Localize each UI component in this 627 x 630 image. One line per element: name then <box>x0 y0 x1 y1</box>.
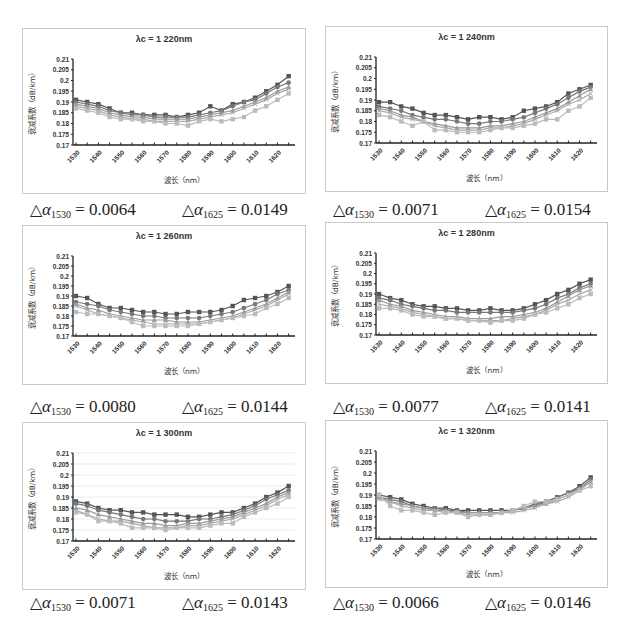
svg-text:0.195: 0.195 <box>356 86 373 93</box>
svg-text:1610: 1610 <box>547 542 562 557</box>
svg-text:1560: 1560 <box>435 146 450 161</box>
delta-alpha-1625: △α1625 = 0.0154 <box>485 200 591 220</box>
svg-text:1540: 1540 <box>88 544 103 559</box>
svg-text:0.175: 0.175 <box>53 527 70 534</box>
delta-icon: △ <box>333 398 345 415</box>
svg-text:波长（nm）: 波长（nm） <box>164 175 204 185</box>
svg-text:0.175: 0.175 <box>53 131 70 138</box>
svg-text:0.17: 0.17 <box>359 140 372 147</box>
svg-text:衰减系数（dB/km）: 衰减系数（dB/km） <box>330 261 340 327</box>
svg-text:0.18: 0.18 <box>56 120 69 127</box>
svg-text:1600: 1600 <box>222 339 237 354</box>
chart-panel: λc = 1 260nm0.210.2050.20.1950.190.1850.… <box>22 225 306 385</box>
svg-text:1560: 1560 <box>133 148 148 163</box>
delta-icon: △ <box>333 201 345 218</box>
svg-text:1590: 1590 <box>502 338 517 353</box>
svg-text:1530: 1530 <box>66 339 81 354</box>
svg-text:0.21: 0.21 <box>359 54 372 61</box>
svg-text:1560: 1560 <box>435 338 450 353</box>
svg-text:0.175: 0.175 <box>356 321 373 328</box>
svg-text:1540: 1540 <box>391 146 406 161</box>
svg-text:1590: 1590 <box>502 146 517 161</box>
line-chart: 0.210.2050.20.1950.190.1850.180.1750.171… <box>326 27 609 193</box>
svg-text:1600: 1600 <box>524 338 539 353</box>
svg-text:1620: 1620 <box>267 544 282 559</box>
svg-text:1530: 1530 <box>66 544 81 559</box>
svg-text:1550: 1550 <box>413 146 428 161</box>
svg-text:1560: 1560 <box>133 544 148 559</box>
svg-text:衰减系数（dB/km）: 衰减系数（dB/km） <box>27 263 37 329</box>
svg-text:0.185: 0.185 <box>356 503 373 510</box>
svg-text:0.175: 0.175 <box>356 129 373 136</box>
svg-text:1530: 1530 <box>369 542 384 557</box>
svg-text:0.195: 0.195 <box>356 481 373 488</box>
svg-text:1530: 1530 <box>66 148 81 163</box>
svg-text:波长（nm）: 波长（nm） <box>164 366 204 376</box>
svg-text:0.205: 0.205 <box>356 260 373 267</box>
delta-alpha-1625: △α1625 = 0.0144 <box>182 397 288 417</box>
svg-text:0.195: 0.195 <box>53 283 70 290</box>
svg-text:1580: 1580 <box>177 544 192 559</box>
chart-panel: λc = 1 240nm0.210.2050.20.1950.190.1850.… <box>325 26 608 192</box>
svg-text:0.195: 0.195 <box>53 483 70 490</box>
svg-text:0.2: 0.2 <box>363 270 372 277</box>
svg-text:0.185: 0.185 <box>53 109 70 116</box>
svg-text:1570: 1570 <box>458 542 473 557</box>
svg-text:0.205: 0.205 <box>53 461 70 468</box>
svg-text:0.17: 0.17 <box>359 536 372 543</box>
figure-caption <box>200 614 420 626</box>
svg-text:1540: 1540 <box>88 339 103 354</box>
svg-text:0.18: 0.18 <box>56 516 69 523</box>
svg-text:1600: 1600 <box>222 544 237 559</box>
delta-icon: △ <box>485 398 497 415</box>
svg-text:1560: 1560 <box>435 542 450 557</box>
svg-text:1570: 1570 <box>155 339 170 354</box>
line-chart: 0.210.2050.20.1950.190.1850.180.1750.171… <box>326 421 609 589</box>
svg-text:波长（nm）: 波长（nm） <box>466 173 506 183</box>
svg-text:0.18: 0.18 <box>359 311 372 318</box>
svg-text:0.185: 0.185 <box>53 505 70 512</box>
svg-text:1620: 1620 <box>569 338 584 353</box>
svg-text:0.175: 0.175 <box>356 525 373 532</box>
svg-text:1620: 1620 <box>267 339 282 354</box>
svg-text:0.205: 0.205 <box>356 459 373 466</box>
svg-text:1580: 1580 <box>480 542 495 557</box>
line-chart: 0.210.2050.20.1950.190.1850.180.1750.171… <box>23 29 307 195</box>
delta-alpha-1530: △α1530 = 0.0066 <box>333 593 439 613</box>
svg-text:1550: 1550 <box>413 542 428 557</box>
svg-text:0.18: 0.18 <box>359 514 372 521</box>
svg-text:波长（nm）: 波长（nm） <box>466 365 506 375</box>
line-chart: 0.210.2050.20.1950.190.1850.180.1750.171… <box>326 223 609 385</box>
svg-text:0.195: 0.195 <box>53 88 70 95</box>
delta-alpha-1530: △α1530 = 0.0071 <box>333 200 439 220</box>
delta-icon: △ <box>30 201 42 218</box>
svg-text:0.205: 0.205 <box>356 64 373 71</box>
delta-icon: △ <box>182 398 194 415</box>
svg-text:1590: 1590 <box>200 544 215 559</box>
svg-text:1570: 1570 <box>458 338 473 353</box>
svg-text:0.18: 0.18 <box>359 118 372 125</box>
svg-text:1550: 1550 <box>110 148 125 163</box>
svg-text:1550: 1550 <box>413 338 428 353</box>
svg-text:1560: 1560 <box>133 339 148 354</box>
delta-icon: △ <box>182 201 194 218</box>
svg-text:0.19: 0.19 <box>56 99 69 106</box>
svg-text:1610: 1610 <box>547 146 562 161</box>
svg-text:0.2: 0.2 <box>60 472 69 479</box>
svg-text:1620: 1620 <box>569 146 584 161</box>
delta-icon: △ <box>333 594 345 611</box>
svg-text:0.17: 0.17 <box>56 538 69 545</box>
svg-text:1610: 1610 <box>245 544 260 559</box>
svg-text:0.205: 0.205 <box>53 66 70 73</box>
delta-icon: △ <box>485 201 497 218</box>
svg-text:0.2: 0.2 <box>60 273 69 280</box>
svg-text:1600: 1600 <box>524 542 539 557</box>
svg-text:1590: 1590 <box>200 339 215 354</box>
delta-icon: △ <box>485 594 497 611</box>
svg-text:0.185: 0.185 <box>356 107 373 114</box>
svg-text:1530: 1530 <box>369 146 384 161</box>
svg-text:1590: 1590 <box>200 148 215 163</box>
svg-text:0.2: 0.2 <box>363 470 372 477</box>
svg-text:1600: 1600 <box>222 148 237 163</box>
svg-text:0.185: 0.185 <box>356 301 373 308</box>
